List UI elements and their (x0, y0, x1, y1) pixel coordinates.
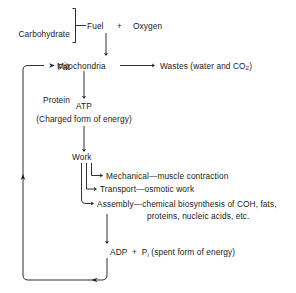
work-branch-transport: Transport—osmotic work (100, 184, 194, 195)
work-branch-mechanical: Mechanical—muscle contraction (106, 171, 228, 182)
mitochondria-node: Mitochondria (57, 61, 106, 72)
branch-name-assembly: Assembly (97, 199, 134, 209)
adp-node: ADP + Pi (spent form of energy) (110, 247, 235, 259)
substrate-bracket-icon (73, 9, 87, 43)
branch-dash-assembly: — (134, 199, 142, 209)
branch-desc-assembly: chemical biosynthesis of COH, fats, (142, 199, 276, 209)
fuel-label: Fuel (87, 21, 104, 32)
adp-subscript: i (147, 251, 148, 258)
wastes-node: Wastes (water and CO2) (160, 61, 252, 73)
branch-dash-transport: — (136, 184, 144, 194)
branch-name-mechanical: Mechanical (106, 171, 149, 181)
atp-caption: (Charged form of energy) (19, 114, 149, 125)
plus-sign: + (117, 21, 122, 32)
oxygen-label: Oxygen (133, 21, 162, 32)
branch-name-transport: Transport (100, 184, 136, 194)
assembly-second-line: proteins, nucleic acids, etc. (147, 211, 250, 222)
work-node: Work (72, 152, 92, 163)
cellular-energy-flow-diagram: Carbohydrate Fat Protein Fuel + Oxygen M… (0, 0, 296, 293)
substrate-carbohydrate: Carbohydrate (4, 29, 70, 41)
work-branch-connectors (82, 163, 102, 204)
atp-node: ATP (54, 101, 114, 112)
branch-desc-mechanical: muscle contraction (157, 171, 228, 181)
adp-caption: (spent form of energy) (149, 247, 235, 257)
wastes-text: Wastes (water and CO (160, 61, 246, 71)
branch-desc-transport: osmotic work (145, 184, 195, 194)
wastes-subscript: 2 (246, 64, 250, 71)
wastes-close-paren: ) (249, 61, 252, 71)
adp-text: ADP + P (110, 247, 147, 257)
work-branch-assembly: Assembly—chemical biosynthesis of COH, f… (97, 199, 277, 210)
